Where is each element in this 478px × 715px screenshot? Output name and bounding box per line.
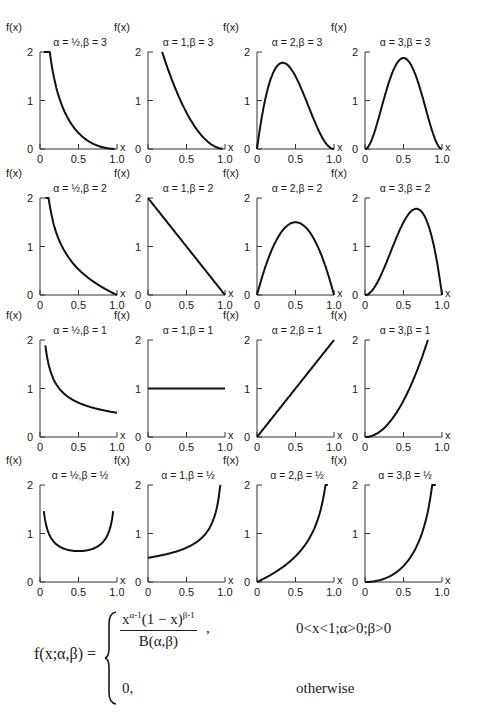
pdf-curve (45, 198, 117, 295)
y-axis-label: f(x) (223, 21, 239, 33)
x-axis-label: x (337, 141, 343, 153)
x-tick-label: 0 (145, 441, 151, 453)
x-tick-label: 0 (145, 153, 151, 165)
y-tick-label: 0 (352, 576, 358, 588)
panel: f(x)α = 1,β = 301200.51.0x (114, 21, 234, 165)
y-tick-label: 0 (27, 289, 33, 301)
x-tick-label: 0.5 (179, 586, 194, 598)
x-tick-label: 0 (362, 586, 368, 598)
panel-title: α = 1,β = ½ (161, 469, 215, 481)
y-axis-label: f(x) (6, 167, 22, 179)
x-axis-label: x (445, 429, 451, 441)
y-axis-label: f(x) (331, 309, 347, 321)
y-tick-label: 2 (27, 46, 33, 58)
y-tick-label: 0 (244, 143, 250, 155)
y-axis-label: f(x) (114, 309, 130, 321)
y-tick-label: 1 (352, 383, 358, 395)
x-tick-label: 0.5 (71, 586, 86, 598)
beta-pdf-grid: f(x)α = ½,β = 301200.51.0xf(x)α = 1,β = … (0, 0, 478, 600)
y-tick-label: 1 (244, 528, 250, 540)
panel: f(x)α = 3,β = ½01200.51.0x (331, 454, 451, 598)
pdf-curve (365, 485, 436, 582)
y-axis-label: f(x) (114, 454, 130, 466)
y-tick-label: 1 (27, 95, 33, 107)
formula-comma: , (206, 620, 210, 637)
y-tick-label: 2 (135, 334, 141, 346)
x-tick-label: 0.5 (396, 441, 411, 453)
panel-title: α = 1,β = 1 (163, 324, 214, 336)
x-tick-label: 0 (362, 441, 368, 453)
y-tick-label: 2 (352, 46, 358, 58)
y-axis-label: f(x) (223, 309, 239, 321)
x-axis-label: x (337, 287, 343, 299)
pdf-curve (44, 52, 115, 149)
x-axis-label: x (120, 574, 126, 586)
y-tick-label: 2 (27, 192, 33, 204)
y-axis-label: f(x) (223, 167, 239, 179)
formula-numerator: xα-1(1 − x)β-1 (120, 610, 197, 631)
pdf-curve (44, 511, 113, 551)
x-tick-label: 0.5 (396, 153, 411, 165)
pdf-curve (365, 209, 442, 295)
panel-title: α = 1,β = 3 (163, 36, 214, 48)
y-axis-label: f(x) (114, 167, 130, 179)
formula-case-2-value: 0, (122, 680, 133, 697)
y-tick-label: 0 (244, 289, 250, 301)
y-tick-label: 0 (27, 576, 33, 588)
y-tick-label: 1 (352, 528, 358, 540)
x-axis-label: x (337, 574, 343, 586)
panel: f(x)α = 1,β = 201200.51.0x (114, 167, 234, 311)
formula-condition-1: 0<x<1;α>0;β>0 (296, 620, 391, 637)
x-tick-label: 1.0 (326, 153, 341, 165)
x-tick-label: 0 (37, 153, 43, 165)
pdf-curve (45, 345, 117, 412)
pdf-curve (257, 63, 334, 149)
y-tick-label: 1 (352, 95, 358, 107)
y-tick-label: 2 (352, 334, 358, 346)
y-tick-label: 1 (135, 241, 141, 253)
panel-title: α = 2,β = 1 (272, 324, 323, 336)
pdf-curve (148, 198, 225, 295)
y-axis-label: f(x) (6, 454, 22, 466)
y-tick-label: 1 (135, 528, 141, 540)
panel-title: α = ½,β = 2 (53, 182, 107, 194)
pdf-curve (257, 485, 328, 582)
x-tick-label: 1.0 (109, 441, 124, 453)
y-tick-label: 0 (27, 143, 33, 155)
x-tick-label: 0.5 (288, 153, 303, 165)
panel: f(x)α = 3,β = 201200.51.0x (331, 167, 451, 311)
panel-title: α = 3,β = ½ (378, 469, 432, 481)
x-tick-label: 1.0 (326, 441, 341, 453)
x-axis-label: x (120, 287, 126, 299)
y-tick-label: 2 (135, 46, 141, 58)
panel: f(x)α = 3,β = 301200.51.0x (331, 21, 451, 165)
panel: f(x)α = 2,β = 101200.51.0x (223, 309, 343, 453)
y-tick-label: 1 (244, 95, 250, 107)
y-tick-label: 0 (135, 431, 141, 443)
x-tick-label: 1.0 (434, 299, 449, 311)
x-axis-label: x (445, 574, 451, 586)
x-axis-label: x (337, 429, 343, 441)
panel-title: α = 3,β = 1 (380, 324, 431, 336)
y-tick-label: 2 (135, 192, 141, 204)
pdf-curve (257, 222, 334, 295)
y-tick-label: 2 (27, 334, 33, 346)
x-tick-label: 0.5 (179, 153, 194, 165)
x-tick-label: 1.0 (109, 153, 124, 165)
y-tick-label: 2 (27, 479, 33, 491)
y-tick-label: 0 (135, 576, 141, 588)
x-axis-label: x (120, 141, 126, 153)
formula-denominator: B(α,β) (120, 631, 197, 650)
pdf-curve (257, 340, 334, 437)
x-tick-label: 0 (254, 441, 260, 453)
formula-condition-2: otherwise (296, 680, 354, 697)
x-tick-label: 0 (145, 299, 151, 311)
y-tick-label: 2 (135, 479, 141, 491)
x-tick-label: 1.0 (217, 586, 232, 598)
y-tick-label: 1 (135, 383, 141, 395)
panel: f(x)α = 2,β = 201200.51.0x (223, 167, 343, 311)
x-tick-label: 0 (37, 299, 43, 311)
y-axis-label: f(x) (223, 454, 239, 466)
panel: f(x)α = 3,β = 101200.51.0x (331, 309, 451, 453)
y-tick-label: 1 (27, 383, 33, 395)
